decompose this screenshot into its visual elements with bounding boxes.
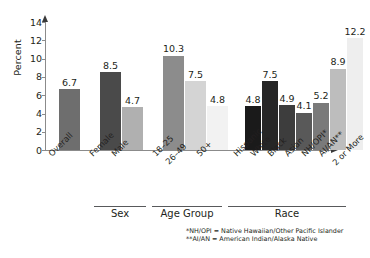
y-tick-label-4: 4 bbox=[16, 109, 42, 119]
plot-area: 6.7 8.5 4.7 10.3 7.5 4.8 4.8 7.5 4.9 4.1… bbox=[46, 22, 336, 150]
value-label-overall: 6.7 bbox=[55, 78, 84, 88]
group-label-age-group: Age Group bbox=[152, 208, 222, 219]
bar-age-26-49 bbox=[185, 81, 206, 150]
group-rule-age-group bbox=[152, 206, 222, 207]
footnote-aian: **AI/AN = American Indian/Alaska Native bbox=[186, 236, 317, 243]
y-axis-arrow-icon bbox=[42, 15, 48, 22]
y-tick-label-0: 0 bbox=[16, 146, 42, 156]
group-label-sex: Sex bbox=[94, 208, 146, 219]
value-label-nhopi: 5.2 bbox=[307, 91, 335, 101]
y-tick-label-6: 6 bbox=[16, 91, 42, 101]
value-label-asian: 4.1 bbox=[290, 101, 318, 111]
group-label-race: Race bbox=[228, 208, 346, 219]
y-tick-label-10: 10 bbox=[16, 54, 42, 64]
value-label-age-26-49: 7.5 bbox=[181, 70, 210, 80]
group-rule-sex bbox=[94, 206, 146, 207]
y-tick-label-8: 8 bbox=[16, 72, 42, 82]
value-label-male: 4.7 bbox=[118, 96, 147, 106]
value-label-hispanic: 4.8 bbox=[239, 95, 267, 105]
value-label-age-18-25: 10.3 bbox=[157, 44, 190, 54]
y-tick-label-12: 12 bbox=[16, 36, 42, 46]
value-label-two-or-more: 12.2 bbox=[339, 27, 370, 37]
y-tick-label-2: 2 bbox=[16, 127, 42, 137]
group-rule-race bbox=[228, 206, 346, 207]
value-label-female: 8.5 bbox=[96, 61, 125, 71]
y-axis-ticks: 14 12 10 8 6 4 2 0 bbox=[8, 0, 42, 258]
value-label-age-50-plus: 4.8 bbox=[203, 95, 232, 105]
value-label-aian: 8.9 bbox=[324, 57, 352, 67]
y-tick-label-14: 14 bbox=[16, 18, 42, 28]
value-label-white: 7.5 bbox=[256, 70, 284, 80]
